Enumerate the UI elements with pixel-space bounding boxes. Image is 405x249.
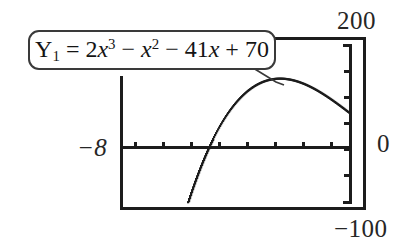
equation-callout: Y1 = 2x3 − x2 − 41x + 70 bbox=[28, 30, 276, 70]
y-axis-tick bbox=[344, 70, 349, 73]
calculator-graph-figure: 200 −8 0 −100 Y1 = 2x3 − x2 − 41x + 70 bbox=[0, 0, 405, 249]
x-axis-tick bbox=[134, 142, 137, 146]
y-axis-bottom-cap bbox=[343, 201, 352, 204]
y-axis-tick bbox=[344, 174, 349, 177]
x-min-label: −8 bbox=[77, 135, 107, 160]
frame-top-border bbox=[272, 37, 366, 40]
frame-left-border bbox=[120, 76, 123, 210]
x-axis-tick bbox=[330, 142, 333, 146]
y-axis-tick bbox=[344, 96, 349, 99]
y-axis-top-cap bbox=[343, 44, 352, 47]
y-axis bbox=[349, 44, 352, 204]
frame-right-border bbox=[363, 37, 366, 210]
x-axis-tick bbox=[274, 142, 277, 146]
y-axis-tick bbox=[344, 122, 349, 125]
y-axis-tick bbox=[344, 148, 349, 151]
equation-text: Y1 = 2x3 − x2 − 41x + 70 bbox=[35, 37, 269, 64]
x-axis bbox=[122, 146, 350, 149]
y-min-label: −100 bbox=[334, 216, 388, 241]
y-max-label: 200 bbox=[337, 8, 376, 33]
x-axis-tick bbox=[190, 142, 193, 146]
x-axis-tick bbox=[246, 142, 249, 146]
x-max-label: 0 bbox=[377, 131, 390, 156]
x-axis-tick bbox=[302, 142, 305, 146]
x-axis-tick bbox=[162, 142, 165, 146]
frame-bottom-border bbox=[120, 207, 366, 210]
x-axis-tick bbox=[218, 142, 221, 146]
